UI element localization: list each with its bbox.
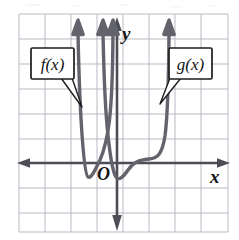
graph-figure: y x O f(x) g(x) (0, 0, 239, 240)
coordinate-plane-svg: y x O f(x) g(x) (0, 0, 239, 240)
g-callout-label: g(x) (177, 55, 205, 74)
y-axis-label: y (120, 23, 131, 44)
x-axis-label: x (209, 166, 220, 187)
figure-background (0, 0, 239, 240)
f-callout-label: f(x) (41, 55, 65, 74)
origin-label: O (97, 164, 110, 184)
